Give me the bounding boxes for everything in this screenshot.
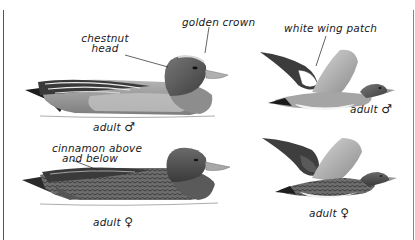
caption-male-flying: adult ♂ (350, 104, 392, 114)
annotation-cinnamon: cinnamon above and below (52, 143, 142, 163)
annotation-line: and below (52, 153, 142, 163)
caption-text: adult (93, 121, 121, 133)
annotation-line: white wing patch (284, 22, 377, 34)
female-symbol-icon: ♀ (340, 206, 349, 220)
male-symbol-icon: ♂ (124, 120, 135, 134)
caption-female-flying: adult ♀ (309, 208, 349, 218)
caption-text: adult (309, 207, 337, 219)
male-flying-duck (260, 36, 395, 110)
caption-text: adult (93, 216, 121, 228)
annotation-line: head (80, 43, 130, 53)
duck-illustrations (0, 0, 415, 240)
annotation-white-wing-patch: white wing patch (284, 23, 377, 33)
annotation-chestnut-head: chestnut head (80, 33, 130, 53)
male-symbol-icon: ♂ (381, 102, 392, 116)
caption-text: adult (350, 103, 378, 115)
illustration-plate: chestnut head golden crown adult ♂ white… (0, 0, 415, 240)
female-flying-duck (262, 138, 397, 198)
caption-female-swimming: adult ♀ (93, 217, 133, 227)
caption-male-swimming: adult ♂ (93, 122, 135, 132)
female-symbol-icon: ♀ (124, 215, 133, 229)
annotation-line: golden crown (182, 16, 255, 28)
annotation-golden-crown: golden crown (182, 17, 255, 27)
